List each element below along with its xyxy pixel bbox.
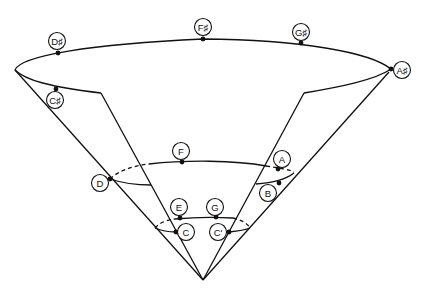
note-dot — [178, 216, 183, 221]
note-label-text: D — [97, 178, 104, 189]
note-dot — [277, 181, 282, 186]
note-label-text: C' — [214, 227, 223, 238]
inner-right-line — [203, 93, 304, 280]
note-dot — [299, 41, 304, 46]
note-dot — [56, 51, 61, 56]
outer-right-line — [203, 72, 389, 280]
middle-ring-back — [149, 161, 266, 166]
note-d: D — [92, 175, 113, 192]
note-dot — [227, 230, 232, 235]
cone-lines — [15, 70, 389, 280]
note-label-text: B — [265, 188, 271, 199]
note-labels: D♯F♯G♯A♯C♯FABDEGCC' — [47, 19, 411, 241]
note-label-text: F — [178, 146, 184, 157]
note-label-text: G — [211, 202, 218, 213]
note-label-text: C♯ — [49, 95, 61, 106]
pitch-cone-diagram: D♯F♯G♯A♯C♯FABDEGCC' — [0, 0, 424, 294]
note-dot — [180, 160, 185, 165]
note-label-text: A — [279, 154, 286, 165]
middle-ring-front-left — [110, 179, 151, 185]
note-dot — [201, 37, 206, 42]
note-label-text: E — [176, 202, 182, 213]
note-dot — [54, 87, 59, 92]
middle-ring-front-right — [256, 173, 294, 184]
note-g-sharp: G♯ — [293, 24, 310, 46]
note-label-text: A♯ — [396, 65, 407, 76]
bottom-ring-back — [175, 217, 233, 219]
note-label-text: G♯ — [295, 27, 307, 38]
middle-ring — [110, 161, 294, 185]
note-c: C — [174, 224, 195, 241]
note-g: G — [207, 199, 224, 220]
inner-left-line — [101, 93, 203, 280]
note-label-text: C — [183, 227, 190, 238]
note-c-prime: C' — [210, 224, 232, 241]
note-dot — [389, 67, 394, 72]
top-ring-back — [15, 39, 391, 70]
top-ring — [15, 39, 391, 93]
top-ring-front-right — [304, 69, 391, 93]
note-c-sharp: C♯ — [47, 87, 64, 109]
note-f-sharp: F♯ — [195, 19, 212, 42]
note-label-text: D♯ — [51, 36, 63, 47]
note-e: E — [171, 199, 188, 221]
outer-left-line — [15, 70, 203, 280]
note-label-text: F♯ — [198, 22, 209, 33]
note-a-sharp: A♯ — [389, 62, 411, 79]
